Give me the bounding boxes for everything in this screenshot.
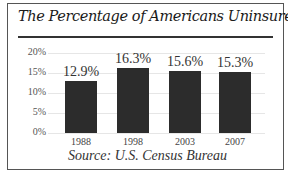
- y-tick-label: 10%: [20, 87, 46, 97]
- bar-value-label: 12.9%: [56, 65, 106, 79]
- x-tick-label: 2003: [165, 137, 205, 147]
- x-tick-label: 1988: [61, 137, 101, 147]
- source-annotation: Source: U.S. Census Bureau: [40, 149, 255, 163]
- bar-2007: [219, 72, 251, 133]
- bar-1988: [65, 81, 97, 133]
- y-tick-label: 0%: [20, 127, 46, 137]
- y-tick-label: 5%: [20, 107, 46, 117]
- bar-value-label: 15.3%: [210, 56, 260, 70]
- x-tick-label: 2007: [215, 137, 255, 147]
- gridline: [48, 133, 265, 134]
- bar-2003: [169, 71, 201, 133]
- y-tick-label: 20%: [20, 47, 46, 57]
- chart-title: The Percentage of Americans Uninsured: [18, 8, 274, 24]
- bar-value-label: 15.6%: [160, 55, 210, 69]
- bar-1998: [117, 68, 149, 133]
- bar-value-label: 16.3%: [108, 52, 158, 66]
- x-tick-label: 1998: [113, 137, 153, 147]
- y-tick-label: 15%: [20, 67, 46, 77]
- title-divider: [18, 36, 273, 38]
